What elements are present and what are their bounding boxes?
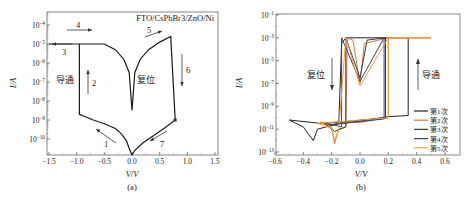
panel-b-label-off: 复位 <box>307 69 325 80</box>
tick-label: 10−7 <box>261 79 274 89</box>
panel-b-legend: 第1次第2次第3次第4次第5次 <box>414 107 448 153</box>
tick-label: −0.2 <box>325 157 339 166</box>
panel-a-caption: (a) <box>127 182 137 192</box>
legend-label: 第3次 <box>430 125 448 134</box>
tick-label: 0.5 <box>155 157 165 166</box>
sweep-arrow-label: 2 <box>92 78 96 88</box>
panel-b-curves <box>289 38 431 144</box>
tick-label: −1.5 <box>42 157 56 166</box>
tick-label: 0.0 <box>127 157 137 166</box>
legend-label: 第5次 <box>430 144 448 153</box>
tick-label: −0.5 <box>98 157 112 166</box>
tick-label: 10−3 <box>261 33 274 43</box>
panel-a-ylabel: I/A <box>8 77 18 89</box>
panel-b-xlabel: V/V <box>355 169 370 179</box>
tick-label: 0.4 <box>412 157 422 166</box>
legend-label: 第2次 <box>430 116 448 125</box>
tick-label: 10−8 <box>32 96 45 106</box>
tick-label: 0.0 <box>355 157 365 166</box>
panel-b-label-on: 导通 <box>422 70 440 80</box>
tick-label: 10−7 <box>32 77 45 87</box>
panel-a-label-off: 复位 <box>137 74 155 85</box>
figure: 10−410−510−610−710−810−910−10 −1.5−1.0−0… <box>0 0 469 202</box>
tick-label: 10−13 <box>258 147 274 157</box>
panel-b-reset-arrow <box>330 58 334 91</box>
tick-label: 0.2 <box>384 157 394 166</box>
sweep-arrow-label: 3 <box>62 47 66 57</box>
tick-label: 10−6 <box>32 58 45 68</box>
legend-label: 第4次 <box>430 135 448 144</box>
panel-a-xlabel: V/V <box>126 169 141 179</box>
sweep-arrow-label: 5 <box>147 25 151 35</box>
sweep-arrow-label: 1 <box>104 139 108 149</box>
panel-b: 10−110−310−510−710−910−1110−13 −0.6−0.4−… <box>234 10 460 192</box>
tick-label: 1.0 <box>183 157 193 166</box>
series-line-1 <box>289 38 408 141</box>
tick-label: 10−9 <box>32 115 45 125</box>
panel-b-set-arrow <box>416 58 420 90</box>
legend-label: 第1次 <box>430 107 448 116</box>
sweep-arrow-label: 6 <box>186 65 190 75</box>
tick-label: 10−1 <box>261 10 274 20</box>
tick-label: 1.5 <box>210 157 220 166</box>
tick-label: −0.6 <box>268 157 282 166</box>
tick-label: 10−5 <box>261 56 274 66</box>
panel-b-caption: (b) <box>356 182 366 192</box>
panel-a-square-marker <box>174 119 177 122</box>
panel-b-x-ticks: −0.6−0.4−0.20.00.20.40.6 <box>268 152 450 166</box>
sweep-arrow-label: 4 <box>76 20 81 30</box>
tick-label: 10−4 <box>32 20 45 30</box>
tick-label: 10−9 <box>261 101 274 111</box>
device-label: FTO/CsPbBr3/ZnO/Ni <box>136 13 214 23</box>
panel-a: 10−410−510−610−710−810−910−10 −1.5−1.0−0… <box>8 12 220 192</box>
tick-label: 0.6 <box>440 157 450 166</box>
panel-a-label-on: 导通 <box>56 75 74 85</box>
tick-label: −0.4 <box>297 157 311 166</box>
sweep-arrow-label: 7 <box>160 139 164 149</box>
panel-b-ylabel: I/A <box>234 77 244 89</box>
tick-label: 10−5 <box>32 39 45 49</box>
tick-label: −1.0 <box>70 157 84 166</box>
tick-label: 10−10 <box>29 134 45 144</box>
tick-label: 10−11 <box>258 124 274 134</box>
